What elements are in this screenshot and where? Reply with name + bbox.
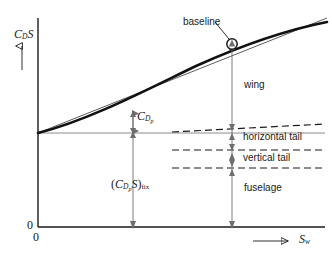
y-axis-label-main: C [14,27,22,41]
x-axis-origin-zero: 0 [33,231,39,243]
component-breakdown-measure-arrow [229,43,235,229]
cdps-fix-suffix: fix [141,183,149,191]
y-axis-label-tail: S [27,27,33,41]
axes-group [38,18,325,227]
total-drag-curve [38,22,327,133]
x-axis-label-sub: w [305,237,310,246]
annotation-horizontal-tail: horizontal tail [243,132,302,142]
y-axis-label: CDS [14,28,33,41]
baseline-tangent-line [38,18,327,133]
annotation-wing: wing [244,80,265,90]
cdp-measure-arrow [130,111,136,134]
cdp-subsub: p [150,118,153,124]
annotation-baseline: baseline [183,17,220,27]
cdp-label: CDp [137,110,153,124]
annotation-fuselage: fuselage [244,183,282,193]
annotation-vertical-tail: vertical tail [243,153,290,163]
x-axis-label: Sw [299,233,310,246]
cdps-fix-main: C [115,177,123,191]
drag-buildup-diagram [0,0,332,260]
cdps-fix-label: (CDpS)fix [111,178,149,192]
cdp-main: C [137,109,145,123]
